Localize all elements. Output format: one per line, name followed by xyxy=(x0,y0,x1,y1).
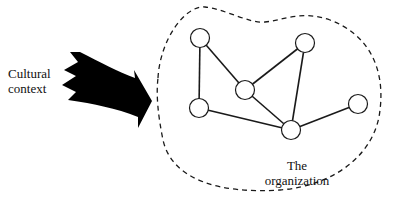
node-D xyxy=(190,99,209,118)
organization-label: The organization xyxy=(262,158,332,188)
cultural-context-label-line2: context xyxy=(8,81,51,96)
organization-label-line1: The xyxy=(262,158,332,173)
edge-A-D xyxy=(199,38,200,108)
node-C xyxy=(236,81,255,100)
edge-B-E xyxy=(291,43,305,130)
node-B xyxy=(296,34,315,53)
network-edges xyxy=(199,38,358,130)
edge-E-F xyxy=(291,104,358,130)
edge-C-B xyxy=(245,43,305,90)
cultural-context-label-line1: Cultural xyxy=(8,66,51,81)
node-F xyxy=(349,95,368,114)
cultural-context-arrow-icon xyxy=(62,52,152,128)
organization-label-line2: organization xyxy=(262,173,332,188)
node-A xyxy=(191,29,210,48)
network-nodes xyxy=(190,29,368,140)
diagram-canvas: Cultural context The organization xyxy=(0,0,398,205)
cultural-context-label: Cultural context xyxy=(8,66,51,96)
edge-A-C xyxy=(200,38,245,90)
node-E xyxy=(282,121,301,140)
